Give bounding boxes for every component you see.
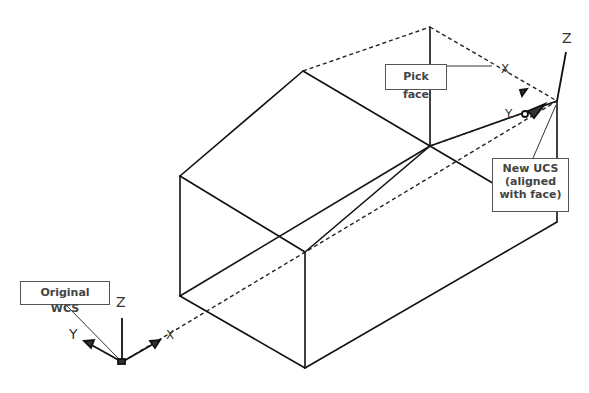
wcs-y-label: Y bbox=[69, 326, 78, 342]
ucs-face-diagram: Pick face New UCS (aligned with face) Or… bbox=[0, 0, 589, 393]
wcs-z-label: Z bbox=[116, 294, 126, 310]
pick-face-callout: Pick face bbox=[385, 64, 447, 90]
new-ucs-line-1: New UCS bbox=[498, 162, 563, 175]
pick-face-label: Pick face bbox=[403, 70, 429, 101]
original-wcs-callout: Original WCS bbox=[20, 281, 110, 305]
new-ucs-callout: New UCS (aligned with face) bbox=[492, 158, 569, 212]
ucs-z-label: Z bbox=[562, 30, 572, 46]
new-ucs-line-3: with face) bbox=[498, 188, 563, 201]
ucs-x-label: X bbox=[501, 62, 509, 76]
new-ucs-line-2: (aligned bbox=[498, 175, 563, 188]
ucs-y-label: Y bbox=[505, 107, 512, 121]
wcs-x-label: X bbox=[166, 328, 174, 342]
